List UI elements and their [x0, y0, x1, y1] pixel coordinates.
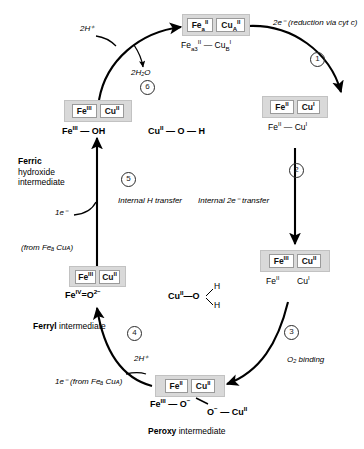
state-box-ferryl: FeIII CuII	[69, 266, 126, 287]
step-1-number: 1	[310, 52, 325, 67]
formula-oxidized-right-mid-fe: FeII	[266, 276, 279, 287]
step-4-number: 4	[127, 326, 142, 341]
cell-fe-oxidized-mid: FeIII	[269, 254, 294, 268]
bond-water-oh-lower	[206, 298, 213, 305]
formula-ferric-hydroxide-cu: CuII — O — H	[148, 126, 205, 137]
cell-cu-reduced: CuI	[297, 100, 320, 114]
state-box-oxidized-right-mid: FeIII CuII	[260, 250, 330, 272]
formula-water-cu: CuII—O	[168, 291, 199, 302]
cytochrome-oxidase-cycle-diagram: FeaII CuAII Fea3II — CuBI 2e⁻ (reduction…	[0, 0, 364, 449]
state-box-reduced-right: FeII CuI	[262, 96, 328, 118]
step-5-electron-source: (from Feₐ Cuᴀ)	[21, 243, 73, 253]
arrow-step-5-electron	[74, 202, 96, 215]
formula-reduced-right: FeII — CuI	[268, 122, 307, 133]
ferryl-intermediate-label: Ferryl intermediate	[33, 321, 106, 332]
cell-fe-peroxy: FeII	[165, 379, 188, 393]
formula-ferryl: FeIV=O2−	[65, 290, 101, 301]
arrow-proton-inlet	[96, 36, 116, 46]
arrow-step-3	[227, 302, 288, 384]
step-2-number: 2	[289, 163, 304, 178]
bond-water-oh-upper	[206, 289, 213, 296]
formula-peroxy-right: O− — CuII	[207, 407, 247, 418]
cell-fe-reduced: FeII	[270, 100, 293, 114]
cell-cu-a-oxidized: CuAII	[216, 18, 245, 32]
peroxy-intermediate-label: Peroxy intermediate	[148, 426, 226, 437]
formula-water-h-upper: H	[214, 281, 220, 292]
cell-fe-ferric: FeIII	[72, 104, 97, 118]
step-3-number: 3	[284, 325, 299, 340]
formula-oxidized-top: Fea3II — CuBI	[181, 40, 231, 51]
step-4-electron-source: 1e⁻ (from Feₐ Cuᴀ)	[55, 377, 122, 387]
state-box-ferric-hydroxide: FeIII CuII	[64, 100, 132, 122]
step-5-number: 5	[121, 172, 136, 187]
bond-peroxy-oo	[196, 398, 208, 404]
step-2-label: Internal 2e⁻ transfer	[198, 196, 269, 206]
cell-cu-ferric: CuII	[100, 104, 125, 118]
ferric-hydroxide-intermediate-label: Ferric hydroxide intermediate	[18, 156, 80, 188]
state-box-oxidized-top: FeaII CuAII	[182, 14, 250, 36]
step-5-electron-label: 1e⁻	[55, 208, 68, 218]
arrow-step-4	[97, 308, 152, 386]
cell-fe-ferryl: FeIII	[75, 270, 96, 284]
water-outlet-label: 2H₂O	[131, 68, 151, 78]
formula-oxidized-right-mid-cu: CuI	[297, 276, 310, 287]
step-6-number: 6	[140, 80, 155, 95]
cell-fe-a-oxidized: FeaII	[187, 18, 214, 32]
formula-ferric-hydroxide-fe: FeIII — OH	[62, 126, 105, 137]
cell-cu-ferryl: CuII	[99, 270, 120, 284]
formula-water-h-lower: H	[214, 300, 220, 311]
proton-inlet-label: 2H⁺	[80, 24, 94, 34]
arrow-step-4-electron	[126, 373, 146, 375]
step-5-label: Internal H transfer	[118, 196, 182, 206]
cell-cu-oxidized-mid: CuII	[297, 254, 322, 268]
arrow-water-outlet	[134, 45, 143, 67]
state-box-peroxy: FeII CuII	[155, 375, 225, 397]
formula-peroxy-left: FeIII — O−	[150, 399, 190, 410]
step-3-label: O₂ binding	[287, 355, 324, 365]
step-1-label: 2e⁻ (reduction via cyt c)	[273, 18, 357, 28]
arrow-step-1	[248, 26, 341, 92]
cell-cu-peroxy: CuII	[191, 379, 216, 393]
step-4-label: 2H⁺	[134, 354, 148, 364]
